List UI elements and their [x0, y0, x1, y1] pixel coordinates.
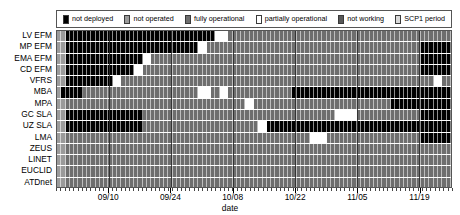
status-cell [447, 99, 451, 109]
x-tick-minor [90, 188, 91, 191]
status-cell [447, 65, 451, 75]
x-tick-minor [65, 188, 66, 191]
y-axis-labels: LV EFMMP EFMEMA EFMCD EFMVFRSMBAMPAGC SL… [0, 30, 54, 188]
legend-not-deployed-label: not deployed [72, 15, 113, 23]
grid-line-vertical [295, 31, 296, 187]
status-cell [447, 155, 451, 165]
x-tick-minor [146, 188, 147, 191]
status-cell [447, 121, 451, 131]
legend-fully-operational-label: fully operational [194, 15, 244, 23]
x-tick-minor [310, 188, 311, 191]
x-tick-minor [82, 188, 83, 191]
status-row [57, 54, 451, 64]
x-tick-minor [405, 188, 406, 191]
instrument-status-timeline-figure: not deployednot operatedfully operationa… [0, 0, 460, 215]
x-tick-minor [271, 188, 272, 191]
grid-line-vertical [233, 31, 234, 187]
status-cell [447, 42, 451, 52]
x-tick-minor [112, 188, 113, 191]
x-tick-minor [245, 188, 246, 191]
grid-line-vertical [357, 31, 358, 187]
legend-not-operated-swatch [124, 15, 130, 24]
x-tick-minor [250, 188, 251, 191]
status-cell [447, 110, 451, 120]
legend-not-operated-label: not operated [133, 15, 173, 23]
grid-line-vertical [419, 31, 420, 187]
y-axis-label-uz-sla: UZ SLA [23, 121, 52, 130]
x-tick-minor [168, 188, 169, 191]
legend-partially-operational: partially operational [256, 11, 327, 27]
x-axis-title: date [0, 203, 460, 213]
grid-line-vertical [109, 31, 110, 187]
legend: not deployednot operatedfully operationa… [56, 10, 452, 28]
x-tick-minor [430, 188, 431, 191]
y-axis-label-atdnet: ATDnet [24, 178, 52, 187]
x-tick-minor [60, 188, 61, 191]
x-tick-minor [95, 188, 96, 191]
status-row [57, 76, 451, 86]
legend-scp1-period-swatch [395, 15, 401, 24]
x-tick-minor [439, 188, 440, 191]
x-tick-minor [228, 188, 229, 191]
status-row [57, 31, 451, 41]
y-axis-label-vfrs: VFRS [30, 76, 52, 85]
x-tick-minor [422, 188, 423, 191]
status-row [57, 133, 451, 143]
status-row [57, 110, 451, 120]
x-tick-minor [323, 188, 324, 191]
x-tick-minor [211, 188, 212, 191]
x-tick-minor [336, 188, 337, 191]
x-tick-minor [370, 188, 371, 191]
x-tick-minor [306, 188, 307, 191]
x-tick-minor [177, 188, 178, 191]
x-tick-minor [409, 188, 410, 191]
x-tick-minor [383, 188, 384, 191]
y-axis-label-cd-efm: CD EFM [20, 65, 52, 74]
legend-not-working: not working [338, 11, 384, 27]
x-tick-minor [263, 188, 264, 191]
x-tick-minor [151, 188, 152, 191]
status-cell [447, 87, 451, 97]
x-tick-minor [121, 188, 122, 191]
status-row [57, 65, 451, 75]
status-row [57, 99, 451, 109]
y-axis-label-mpa: MPA [34, 99, 52, 108]
x-tick-minor [331, 188, 332, 191]
x-tick-minor [202, 188, 203, 191]
y-axis-label-mba: MBA [34, 87, 52, 96]
status-cell [447, 54, 451, 64]
x-tick-minor [215, 188, 216, 191]
x-tick-minor [400, 188, 401, 191]
x-tick-minor [448, 188, 449, 191]
x-tick-minor [181, 188, 182, 191]
x-tick-minor [133, 188, 134, 191]
status-row [57, 42, 451, 52]
y-axis-label-linet: LINET [28, 155, 52, 164]
y-axis-label-ema-efm: EMA EFM [14, 54, 52, 63]
x-tick-minor [392, 188, 393, 191]
x-tick-minor [362, 188, 363, 191]
x-tick-minor [198, 188, 199, 191]
status-cell [447, 133, 451, 143]
x-tick-minor [426, 188, 427, 191]
x-tick-minor [194, 188, 195, 191]
status-cell [447, 76, 451, 86]
status-cell [447, 144, 451, 154]
x-tick-minor [69, 188, 70, 191]
x-tick-minor [189, 188, 190, 191]
x-tick-minor [220, 188, 221, 191]
x-axis-tick-label-10-08: 10/08 [222, 192, 243, 202]
x-tick-minor [301, 188, 302, 191]
x-tick-minor [344, 188, 345, 191]
x-tick-minor [241, 188, 242, 191]
x-tick-minor [284, 188, 285, 191]
x-tick-minor [258, 188, 259, 191]
status-cell [447, 31, 451, 41]
x-tick-minor [56, 188, 57, 191]
status-row [57, 166, 451, 176]
legend-partially-operational-swatch [256, 15, 262, 24]
x-tick-minor [340, 188, 341, 191]
x-axis-tick-label-09-10: 09/10 [98, 192, 119, 202]
x-tick-minor [99, 188, 100, 191]
x-tick-minor [443, 188, 444, 191]
